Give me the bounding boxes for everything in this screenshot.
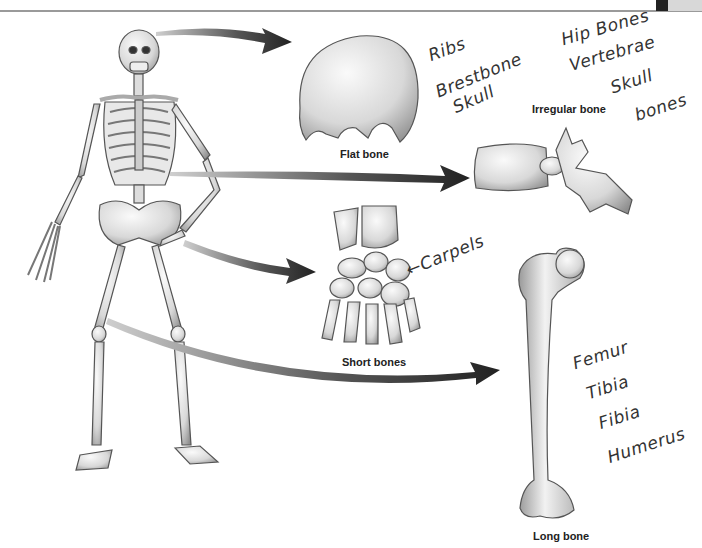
bone-diagram-art xyxy=(0,0,702,548)
long-bone-illustration xyxy=(519,248,584,518)
flat-bone-illustration xyxy=(300,36,418,142)
irregular-bone-illustration xyxy=(474,128,632,214)
skeleton-figure xyxy=(28,30,220,470)
short-bones-label: Short bones xyxy=(342,356,406,368)
short-bones-illustration xyxy=(322,206,420,344)
long-bone-label: Long bone xyxy=(533,530,589,542)
irregular-bone-label: Irregular bone xyxy=(532,103,606,115)
flat-bone-label: Flat bone xyxy=(340,148,389,160)
